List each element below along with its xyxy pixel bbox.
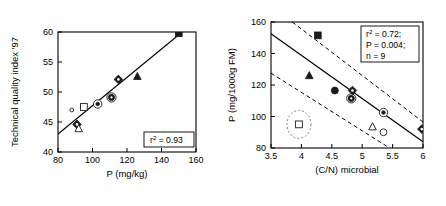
regression-line xyxy=(58,32,182,134)
marker-small-open-circle xyxy=(70,108,74,112)
y-axis-label: P (mg/1000g FM) xyxy=(226,48,237,122)
x-axis-label: P (mg/kg) xyxy=(106,168,147,179)
data-point-circled-filled-circle xyxy=(347,94,356,103)
marker-inner-dot xyxy=(96,102,100,106)
data-point-filled-triangle xyxy=(134,72,142,79)
x-tick-label: 6 xyxy=(420,151,425,161)
marker-filled-square xyxy=(314,32,321,39)
stats-n: n = 9 xyxy=(366,51,386,61)
data-point-open-circle xyxy=(380,129,387,136)
marker-open-square xyxy=(80,104,87,111)
y-tick-label: 120 xyxy=(251,80,266,90)
data-point-filled-square xyxy=(175,30,182,37)
panel-left-scatter: 801001201401604045505560P (mg/kg)Technic… xyxy=(0,0,223,206)
y-tick-label: 60 xyxy=(43,27,53,37)
y-tick-label: 140 xyxy=(251,49,266,59)
data-point-filled-triangle xyxy=(306,72,314,79)
y-tick-label: 50 xyxy=(43,87,53,97)
stats-p-value: P = 0.004; xyxy=(366,40,405,50)
marker-filled-square xyxy=(175,30,182,37)
data-point-circled-dot xyxy=(379,108,387,116)
marker-filled-circle xyxy=(331,87,338,94)
x-tick-label: 120 xyxy=(119,155,134,165)
data-point-open-triangle xyxy=(369,123,377,130)
marker-center-dot xyxy=(351,89,354,92)
marker-open-square xyxy=(296,121,303,128)
y-tick-label: 80 xyxy=(256,143,266,153)
y-tick-label: 45 xyxy=(43,117,53,127)
marker-filled-triangle xyxy=(134,72,142,79)
x-tick-label: 5 xyxy=(360,151,365,161)
y-tick-label: 40 xyxy=(43,147,53,157)
y-axis-label: Technical quality index '97 xyxy=(9,37,20,147)
x-tick-label: 100 xyxy=(85,155,100,165)
data-point-target-diamond xyxy=(417,125,426,134)
marker-open-triangle xyxy=(369,123,377,130)
data-point-filled-square xyxy=(314,32,321,39)
marker-center-dot xyxy=(110,96,112,98)
x-tick-label: 5.5 xyxy=(386,151,399,161)
marker-filled-triangle xyxy=(306,72,314,79)
x-tick-label: 4 xyxy=(299,151,304,161)
x-tick-label: 3.5 xyxy=(265,151,278,161)
marker-center-dot xyxy=(420,128,423,131)
confidence-band-lower xyxy=(271,73,390,148)
marker-center-dot xyxy=(350,97,352,99)
x-tick-label: 4.5 xyxy=(326,151,339,161)
data-point-filled-circle xyxy=(331,87,338,94)
y-tick-label: 55 xyxy=(43,57,53,67)
figure-container: 801001201401604045505560P (mg/kg)Technic… xyxy=(0,0,446,206)
y-tick-label: 100 xyxy=(251,112,266,122)
x-tick-label: 160 xyxy=(188,155,203,165)
x-tick-label: 80 xyxy=(53,155,63,165)
marker-center-dot xyxy=(117,78,120,81)
marker-inner-dot xyxy=(382,111,386,115)
panel-right-svg: 3.544.555.5680100120140160(C/N) microbia… xyxy=(223,0,446,206)
data-point-open-square xyxy=(296,121,303,128)
panel-left-svg: 801001201401604045505560P (mg/kg)Technic… xyxy=(0,0,223,206)
panel-right-scatter: 3.544.555.5680100120140160(C/N) microbia… xyxy=(223,0,446,206)
data-point-open-square xyxy=(80,104,87,111)
y-tick-label: 160 xyxy=(251,17,266,27)
x-tick-label: 140 xyxy=(154,155,169,165)
data-point-small-open-circle xyxy=(70,108,74,112)
x-axis-label: (C/N) microbial xyxy=(315,164,378,175)
data-point-circled-filled-circle xyxy=(107,93,116,102)
marker-open-circle xyxy=(380,129,387,136)
data-point-circled-dot xyxy=(93,100,101,108)
